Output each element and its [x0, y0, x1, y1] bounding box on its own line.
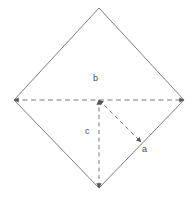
vector-label-a: a: [142, 145, 147, 154]
vector-label-b: b: [93, 74, 98, 83]
vector-a-arrow: [99, 100, 141, 142]
vector-diagram: b c a: [0, 0, 196, 204]
diagram-canvas: [0, 0, 196, 204]
vector-label-c: c: [85, 127, 90, 136]
